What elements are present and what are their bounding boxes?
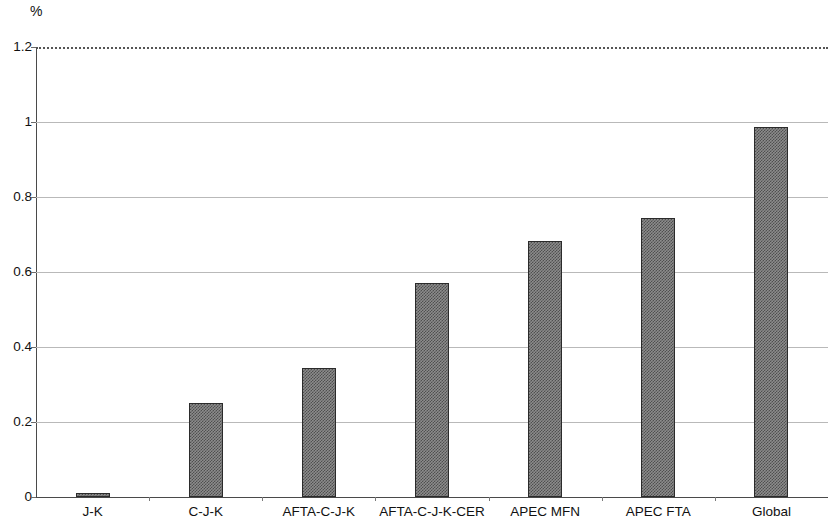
y-axis-tick-mark (31, 272, 36, 273)
y-axis-tick-mark (31, 422, 36, 423)
gridline (36, 197, 828, 198)
gridline (36, 122, 828, 123)
bar (76, 493, 110, 498)
x-axis-tick-label: C-J-K (149, 502, 262, 521)
x-axis-tick-labels: J-KC-J-KAFTA-C-J-KAFTA-C-J-K-CERAPEC MFN… (36, 502, 828, 523)
x-axis-line (36, 497, 828, 498)
x-axis-tick-label: Global (715, 502, 828, 521)
y-axis-tick-labels: 00.20.40.60.811.2 (0, 0, 32, 523)
y-axis-tick-label: 1.2 (4, 40, 32, 54)
bar (754, 127, 788, 497)
x-axis-tick-label: AFTA-C-J-K-CER (375, 502, 488, 521)
x-axis-tick-label: APEC MFN (489, 502, 602, 521)
x-axis-tick-mark (375, 497, 376, 501)
gridline (36, 47, 828, 49)
x-axis-tick-mark (602, 497, 603, 501)
x-axis-tick-mark (262, 497, 263, 501)
x-axis-tick-label: AFTA-C-J-K (262, 502, 375, 521)
y-axis-tick-mark (31, 497, 36, 498)
x-axis-tick-label: J-K (36, 502, 149, 521)
bar (641, 218, 675, 497)
gridline (36, 272, 828, 273)
bar (415, 283, 449, 498)
x-axis-tick-mark (489, 497, 490, 501)
bar-chart: % 00.20.40.60.811.2 J-KC-J-KAFTA-C-J-KAF… (0, 0, 828, 523)
bar (528, 241, 562, 498)
y-axis-tick-mark (31, 347, 36, 348)
plot-area (36, 47, 828, 497)
y-axis-tick-label: 0.6 (4, 265, 32, 279)
y-axis-tick-label: 0.2 (4, 415, 32, 429)
y-axis-tick-label: 1 (4, 115, 32, 129)
y-axis-tick-mark (31, 122, 36, 123)
y-axis-tick-label: 0.8 (4, 190, 32, 204)
x-axis-tick-mark (715, 497, 716, 501)
y-axis-tick-label: 0 (4, 490, 32, 504)
x-axis-tick-mark (149, 497, 150, 501)
bar (302, 368, 336, 497)
y-axis-tick-mark (31, 47, 36, 48)
y-axis-tick-mark (31, 197, 36, 198)
bar (189, 403, 223, 497)
y-axis-tick-label: 0.4 (4, 340, 32, 354)
x-axis-tick-label: APEC FTA (602, 502, 715, 521)
